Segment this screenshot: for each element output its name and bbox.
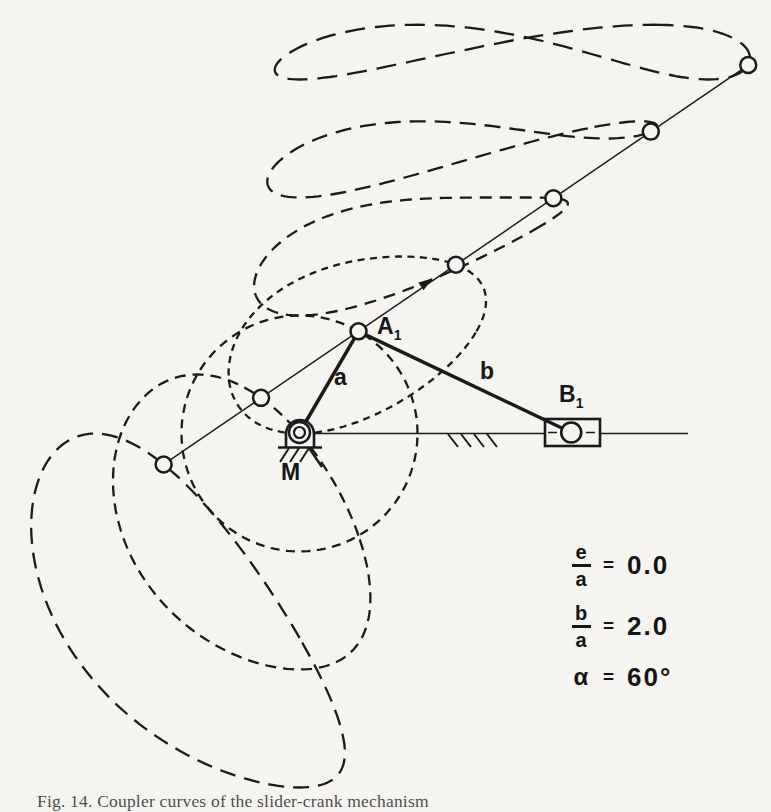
coupler-curve-k-1 — [113, 375, 370, 670]
fraction-bar — [572, 564, 591, 567]
crank-pin-circle — [351, 323, 367, 339]
joints-layer — [156, 57, 757, 472]
label-slider-pin-subscript: 1 — [576, 395, 584, 411]
equals-sign: = — [603, 615, 614, 637]
crank-link-a — [300, 331, 359, 432]
label-slider-pin-letter: B — [559, 381, 576, 407]
param-e-over-a: e a = 0.0 — [568, 540, 672, 590]
label-slider-pin: B1 — [559, 383, 583, 410]
guide-hatch-tick — [448, 434, 458, 447]
coupler-point-circle — [740, 57, 756, 73]
param-value: 0.0 — [627, 550, 669, 581]
mechanism-layer — [278, 331, 600, 467]
coupler-curve-k-2 — [31, 434, 345, 788]
fraction-denominator: a — [575, 630, 586, 650]
equals-sign: = — [603, 666, 614, 688]
fraction-denominator: a — [575, 569, 586, 589]
label-coupler-link: b — [480, 360, 494, 383]
guide-hatch-tick — [474, 434, 484, 447]
coupler-curve-k3 — [267, 121, 657, 197]
pivot-hatch-tick — [309, 448, 322, 467]
coupler-curve-k1 — [229, 257, 486, 434]
fraction-e-a: e a — [568, 542, 594, 589]
label-crank-link: a — [334, 366, 347, 389]
coupler-point-circle — [545, 190, 561, 206]
fraction-numerator: e — [575, 542, 586, 562]
alpha-symbol: α — [568, 663, 594, 691]
fraction-numerator: b — [575, 603, 587, 623]
coupler-point-circle — [156, 456, 172, 472]
label-crank-pin-letter: A — [377, 313, 394, 339]
equals-sign: = — [603, 554, 614, 576]
figure-caption: Fig. 14. Coupler curves of the slider-cr… — [37, 791, 429, 812]
label-crank-pin-subscript: 1 — [394, 327, 402, 343]
coupler-point-circle — [643, 124, 659, 140]
label-fixed-pivot: M — [281, 461, 300, 484]
guide-hatch-tick — [461, 434, 471, 447]
param-b-over-a: b a = 2.0 — [568, 601, 672, 651]
param-alpha: α = 60° — [568, 662, 672, 692]
guide-hatch-tick — [487, 434, 497, 447]
slider-pin-circle — [561, 423, 581, 443]
coupler-curve-k4 — [275, 25, 750, 80]
param-value: 60° — [627, 662, 672, 693]
coupler-point-circle — [253, 390, 269, 406]
label-crank-pin: A1 — [377, 315, 401, 342]
fraction-bar — [572, 625, 591, 628]
fraction-b-a: b a — [568, 603, 594, 650]
pivot-pin-inner — [294, 427, 305, 438]
pivot-hatch-tick — [300, 448, 309, 462]
coupler-point-circle — [448, 257, 464, 273]
parameter-block: e a = 0.0 b a = 2.0 α = 60° — [568, 540, 672, 692]
param-value: 2.0 — [627, 611, 669, 642]
